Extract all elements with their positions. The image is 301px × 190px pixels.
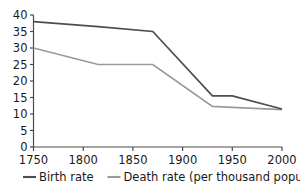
y-tick-label: 40 xyxy=(13,8,28,22)
series-line-death-rate xyxy=(34,48,283,110)
chart-legend: Birth rateDeath rate (per thousand popul… xyxy=(23,170,300,184)
line-chart: 0510152025303540 17501800185019001950200… xyxy=(0,0,300,190)
x-tick-label: 1850 xyxy=(118,153,147,167)
series-line-birth-rate xyxy=(34,22,283,109)
y-tick-label: 20 xyxy=(13,74,28,88)
data-series-group xyxy=(34,22,283,110)
y-tick-label: 5 xyxy=(20,124,27,138)
y-tick-label: 15 xyxy=(13,91,28,105)
chart-canvas: 0510152025303540 17501800185019001950200… xyxy=(0,0,300,190)
x-tick-label: 1750 xyxy=(19,153,48,167)
y-tick-label: 0 xyxy=(20,140,27,154)
x-tick-label: 2000 xyxy=(267,153,296,167)
y-tick-label: 25 xyxy=(13,58,28,72)
x-tick-label: 1900 xyxy=(168,153,197,167)
x-axis-tick-marks xyxy=(34,147,283,151)
y-tick-label: 30 xyxy=(13,41,28,55)
x-tick-label: 1800 xyxy=(69,153,98,167)
y-tick-label: 35 xyxy=(13,25,28,39)
x-tick-label: 1950 xyxy=(218,153,247,167)
x-axis-tick-labels: 175018001850190019502000 xyxy=(19,153,297,167)
legend-label-death-rate: Death rate (per thousand population) xyxy=(124,170,301,184)
legend-label-birth-rate: Birth rate xyxy=(39,170,94,184)
y-tick-label: 10 xyxy=(13,107,28,121)
y-axis-tick-labels: 0510152025303540 xyxy=(13,8,28,154)
